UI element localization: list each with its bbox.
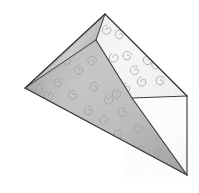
origami-illustration [0,0,199,193]
origami-figure: Pencil drawing of a sheet of spiral-patt… [0,0,199,193]
